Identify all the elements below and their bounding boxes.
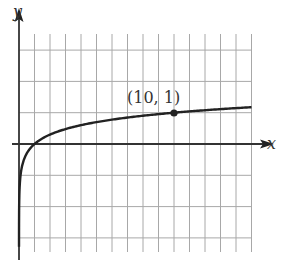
y-axis-label: y (12, 2, 23, 21)
point-marker (170, 109, 177, 116)
log-graph: (10, 1) x y (0, 0, 285, 268)
x-axis-label: x (267, 134, 276, 153)
log-curve (19, 107, 251, 247)
point-label: (10, 1) (127, 88, 180, 107)
grid-lines (19, 34, 252, 252)
